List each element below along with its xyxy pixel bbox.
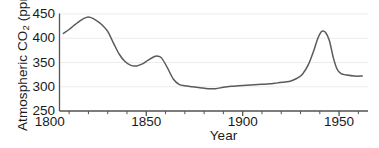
axis-tick-marks (69, 111, 358, 116)
data-line-atmospheric-co2 (63, 17, 362, 89)
co2-line-chart: Atmospheric CO2 (ppm) 450400350300250 18… (0, 0, 379, 148)
plot-area (0, 0, 379, 148)
